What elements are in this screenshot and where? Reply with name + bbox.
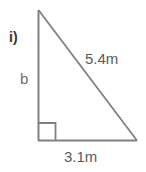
part-label: i) [9,30,18,44]
hypotenuse-label: 5.4m [85,51,118,66]
triangle-figure: i) 5.4m b 3.1m [0,0,146,172]
vertical-side-label: b [20,71,28,86]
right-angle-marker-icon [39,123,56,141]
base-label: 3.1m [64,149,97,164]
hypotenuse-line [39,10,138,141]
